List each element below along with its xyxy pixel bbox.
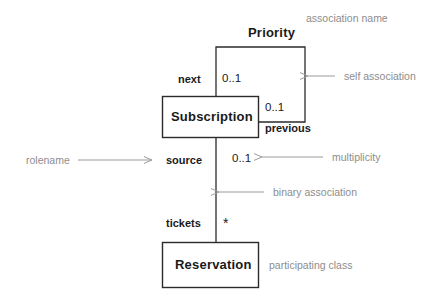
annotation-participating-class: participating class	[269, 260, 352, 271]
association-name-label: Priority	[248, 26, 295, 39]
multiplicity-label-next: 0..1	[222, 73, 241, 85]
role-label-tickets: tickets	[166, 218, 201, 229]
uml-diagram-canvas: Priority Subscription Reservation next p…	[0, 0, 440, 302]
annotation-rolename: rolename	[26, 155, 70, 166]
annotation-association-name: association name	[306, 13, 388, 24]
annotation-multiplicity: multiplicity	[332, 152, 380, 163]
multiplicity-label-previous: 0..1	[265, 102, 284, 114]
class-name-reservation: Reservation	[175, 258, 252, 271]
multiplicity-label-source: 0..1	[232, 153, 251, 165]
role-label-source: source	[166, 155, 202, 166]
role-label-previous: previous	[265, 123, 311, 134]
role-label-next: next	[178, 74, 201, 85]
annotation-self-association: self association	[344, 71, 416, 82]
multiplicity-label-tickets: *	[223, 216, 228, 230]
class-name-subscription: Subscription	[171, 110, 253, 123]
annotation-binary-association: binary association	[273, 187, 357, 198]
